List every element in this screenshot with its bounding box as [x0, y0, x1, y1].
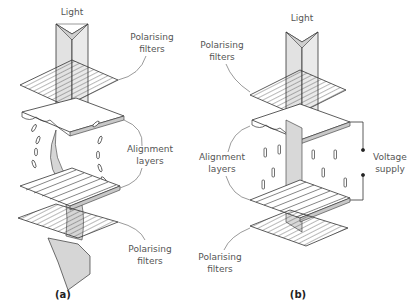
top-polarising-filter	[20, 60, 118, 106]
voltage-label: Voltage	[373, 152, 407, 162]
top-filter-label: Polarising	[200, 40, 243, 50]
light-label: Light	[61, 7, 84, 17]
top-filter-label: Polarising	[130, 32, 173, 42]
bottom-polarising-filter	[250, 210, 348, 246]
bottom-alignment-layer	[20, 168, 120, 210]
alignment-label-2: layers	[136, 156, 164, 166]
lcd-diagram: Light Polarising filters Alignment layer…	[0, 0, 408, 307]
panel-b-caption: (b)	[290, 289, 306, 300]
top-filter-label-2: filters	[209, 52, 235, 62]
bottom-filter-label-2: filters	[137, 256, 163, 266]
panel-a: Light Polarising filters Alignment layer…	[18, 7, 174, 300]
bottom-filter-label: Polarising	[198, 252, 241, 262]
top-filter-label-2: filters	[139, 44, 165, 54]
panel-b: Light Polarising filters Alignment layer…	[198, 13, 407, 300]
bottom-filter-label-2: filters	[207, 264, 233, 274]
outgoing-light-arrow-icon	[48, 238, 90, 290]
alignment-label: Alignment	[127, 144, 174, 154]
panel-a-caption: (a)	[55, 289, 71, 300]
bottom-filter-label: Polarising	[128, 244, 171, 254]
light-label: Light	[291, 13, 314, 23]
alignment-label: Alignment	[199, 152, 246, 162]
alignment-label-2: layers	[208, 164, 236, 174]
bottom-polarising-filter	[18, 204, 118, 238]
voltage-label-2: supply	[375, 164, 405, 174]
top-alignment-layer	[22, 98, 124, 136]
voltage-supply-wires	[350, 122, 365, 200]
